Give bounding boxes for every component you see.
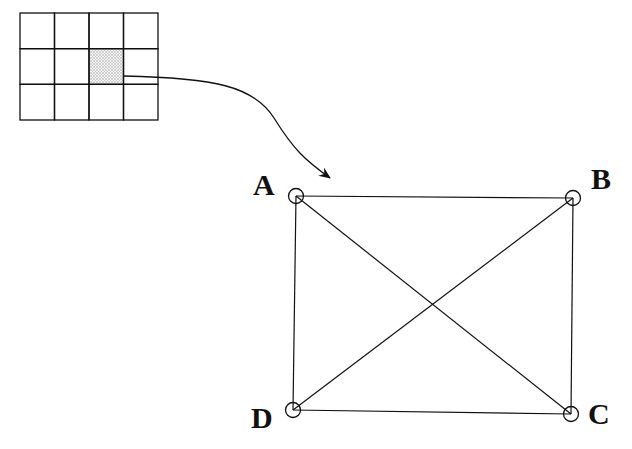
grid-cell [55,13,90,49]
edge-a-b [296,196,573,198]
node-label: B [591,162,611,195]
grid-cell [89,84,124,120]
highlighted-cell [89,49,124,85]
grid-cell [124,13,159,49]
edge-a-c [296,196,571,414]
grid-cell [55,49,90,85]
mapping-arrow [124,76,330,178]
edge-d-a [293,196,296,410]
grid-cell [20,49,55,85]
grid-matrix [20,13,158,120]
graph-edges [293,196,573,414]
grid-cell [20,13,55,49]
edge-b-d [293,198,573,410]
graph-diagram: ABCD [0,0,632,449]
node-label: A [253,168,275,201]
edge-b-c [571,198,573,414]
grid-cell [89,13,124,49]
node-label: C [588,397,610,430]
edge-c-d [293,410,571,414]
node-label: D [251,401,273,434]
grid-cell [20,84,55,120]
grid-cell [55,84,90,120]
grid-cell [124,49,159,85]
grid-cell [124,84,159,120]
